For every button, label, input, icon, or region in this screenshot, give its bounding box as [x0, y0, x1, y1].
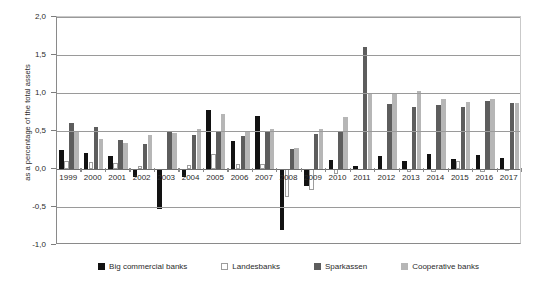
bar: [290, 149, 294, 169]
bar: [402, 161, 406, 169]
x-tick-mark: [178, 168, 179, 172]
x-tick-label: 2003: [157, 173, 175, 182]
legend-item[interactable]: Sparkassen: [314, 262, 367, 271]
bar: [412, 107, 416, 169]
legend-label: Cooperative banks: [412, 262, 479, 271]
y-tick-mark: [51, 244, 56, 245]
legend-item[interactable]: Landesbanks: [221, 262, 280, 271]
x-tick-mark: [521, 168, 522, 172]
bar: [89, 162, 93, 169]
legend-swatch-icon: [221, 263, 228, 270]
bar: [510, 103, 514, 169]
x-tick-mark: [448, 168, 449, 172]
bar: [143, 144, 147, 169]
x-tick-mark: [497, 168, 498, 172]
y-tick-mark: [51, 206, 56, 207]
x-tick-mark: [301, 168, 302, 172]
legend-item[interactable]: Big commercial banks: [98, 262, 187, 271]
x-tick-mark: [56, 168, 57, 172]
gridline: [57, 93, 520, 94]
bar: [216, 131, 220, 169]
bar: [241, 136, 245, 169]
gridline: [57, 169, 520, 170]
bar: [231, 141, 235, 169]
bar: [84, 153, 88, 169]
legend-label: Landesbanks: [232, 262, 280, 271]
x-tick-label: 2012: [377, 173, 395, 182]
bars-layer: [57, 17, 520, 243]
x-tick-mark: [203, 168, 204, 172]
bar: [490, 99, 494, 169]
bar: [59, 150, 63, 169]
legend-label: Sparkassen: [325, 262, 367, 271]
bar: [476, 155, 480, 169]
x-tick-label: 2013: [402, 173, 420, 182]
x-tick-label: 2001: [108, 173, 126, 182]
y-tick-mark: [51, 54, 56, 55]
x-tick-label: 2004: [182, 173, 200, 182]
bar: [485, 101, 489, 169]
x-tick-label: 2000: [84, 173, 102, 182]
x-tick-label: 2008: [280, 173, 298, 182]
x-tick-mark: [350, 168, 351, 172]
chart-legend: Big commercial banksLandesbanksSparkasse…: [56, 258, 521, 274]
x-tick-label: 2010: [329, 173, 347, 182]
bar: [74, 131, 78, 169]
bar-chart: as a percentage of the total assets 2,01…: [0, 0, 534, 292]
bar: [363, 47, 367, 169]
x-tick-mark: [154, 168, 155, 172]
gridline: [57, 55, 520, 56]
bar: [221, 114, 225, 169]
x-tick-label: 2016: [475, 173, 493, 182]
bar: [319, 129, 323, 169]
bar: [387, 104, 391, 169]
bar: [64, 161, 68, 169]
bar: [338, 131, 342, 169]
bar: [108, 156, 112, 169]
legend-swatch-icon: [401, 263, 408, 270]
legend-label: Big commercial banks: [109, 262, 187, 271]
y-tick-label: 1,5: [12, 50, 46, 59]
bar: [245, 131, 249, 169]
bar: [270, 129, 274, 169]
bar: [118, 140, 122, 169]
bar: [123, 143, 127, 169]
bar: [148, 135, 152, 169]
gridline: [57, 131, 520, 132]
bar: [461, 107, 465, 169]
bar: [314, 134, 318, 169]
x-tick-mark: [472, 168, 473, 172]
bar: [265, 131, 269, 169]
bar: [427, 154, 431, 169]
y-axis-title: as a percentage of the total assets: [23, 38, 32, 208]
bar: [466, 102, 470, 169]
plot-area: [56, 16, 521, 244]
bar: [456, 161, 460, 169]
y-tick-label: 0,0: [12, 164, 46, 173]
x-tick-mark: [105, 168, 106, 172]
bar: [211, 154, 215, 169]
bar: [197, 129, 201, 169]
bar: [255, 116, 259, 169]
x-tick-label: 2011: [353, 173, 370, 182]
gridline: [57, 207, 520, 208]
x-tick-mark: [252, 168, 253, 172]
bar: [172, 133, 176, 169]
x-tick-mark: [423, 168, 424, 172]
y-tick-label: 0,5: [12, 126, 46, 135]
bar: [192, 135, 196, 169]
legend-item[interactable]: Cooperative banks: [401, 262, 479, 271]
bar: [167, 131, 171, 169]
y-tick-label: 1,0: [12, 88, 46, 97]
bar: [441, 99, 445, 169]
legend-swatch-icon: [314, 263, 321, 270]
bar: [343, 117, 347, 169]
y-tick-label: -1,0: [12, 240, 46, 249]
y-tick-label: 2,0: [12, 12, 46, 21]
x-tick-label: 2007: [255, 173, 273, 182]
bar: [500, 158, 504, 169]
x-tick-label: 1999: [59, 173, 77, 182]
x-tick-mark: [227, 168, 228, 172]
x-tick-mark: [374, 168, 375, 172]
y-tick-mark: [51, 92, 56, 93]
